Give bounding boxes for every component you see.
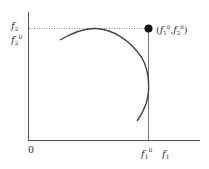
y-tick-label: f20 — [10, 33, 23, 46]
origin-label: 0 — [28, 144, 34, 155]
x-tick-label: f10 — [140, 146, 153, 160]
frontier-curve — [60, 28, 149, 121]
x-axis-label: f1 — [161, 148, 170, 160]
pareto-diagram: f2 f20 (f10,f20) 0 f10 f1 — [0, 0, 209, 169]
ideal-point — [145, 25, 153, 33]
ideal-point-label: (f10,f20) — [156, 24, 188, 36]
y-axis-label: f2 — [10, 20, 19, 32]
